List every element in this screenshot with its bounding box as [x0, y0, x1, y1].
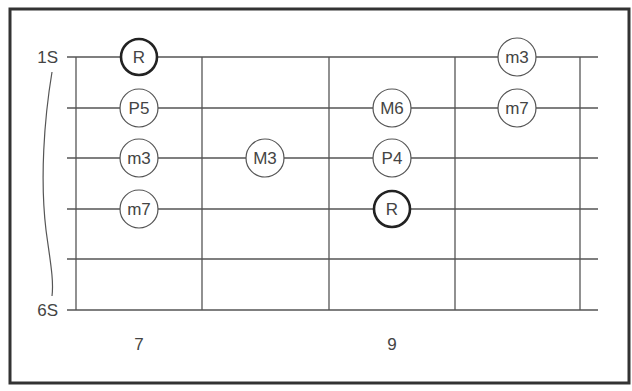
- fret-number: 7: [134, 335, 143, 354]
- note-label: M6: [380, 99, 404, 118]
- interval-note-marker: m3: [120, 139, 158, 177]
- diagram-frame: [10, 9, 629, 383]
- note-label: R: [386, 200, 398, 219]
- note-label: m7: [505, 99, 529, 118]
- note-label: M3: [253, 149, 277, 168]
- note-label: m7: [127, 200, 151, 219]
- interval-note-marker: P5: [120, 89, 158, 127]
- fret-number: 9: [387, 335, 396, 354]
- string-label: 6S: [37, 301, 58, 320]
- note-label: R: [133, 48, 145, 67]
- interval-note-marker: M3: [246, 139, 284, 177]
- interval-note-marker: P4: [373, 139, 411, 177]
- note-label: P5: [129, 99, 150, 118]
- note-label: m3: [127, 149, 151, 168]
- interval-note-marker: m7: [120, 190, 158, 228]
- interval-note-marker: m7: [498, 89, 536, 127]
- string-label: 1S: [37, 48, 58, 67]
- interval-note-marker: m3: [498, 38, 536, 76]
- note-label: m3: [505, 48, 529, 67]
- note-label: P4: [382, 149, 403, 168]
- fretboard-diagram: 1S6S 79 RP5m3m7M3M6P4Rm3m7: [0, 0, 632, 391]
- root-note-marker: R: [121, 39, 157, 75]
- interval-note-marker: M6: [373, 89, 411, 127]
- root-note-marker: R: [374, 191, 410, 227]
